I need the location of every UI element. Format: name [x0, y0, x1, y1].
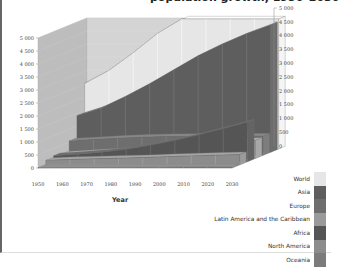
- x-tick: 1950: [32, 181, 45, 187]
- x-tick: 2000: [153, 181, 166, 187]
- legend-item: Europe: [214, 199, 326, 213]
- x-tick: 2020: [201, 181, 214, 187]
- legend-item: North America: [214, 240, 326, 254]
- legend-label: Latin America and the Caribbean: [214, 216, 310, 222]
- y-tick-right: 500: [279, 129, 289, 135]
- legend-item: Oceania: [214, 253, 326, 267]
- y-tick-right: 2 000: [279, 88, 293, 94]
- y-tick-left: 500: [24, 152, 34, 158]
- y-tick-left: 3 500: [20, 74, 34, 80]
- legend-swatch: [314, 226, 326, 240]
- y-tick-left: 3 000: [20, 87, 34, 93]
- legend-swatch: [314, 240, 326, 254]
- legend-label: World: [293, 176, 310, 182]
- legend-swatch: [314, 253, 326, 267]
- x-tick: 1990: [129, 181, 142, 187]
- x-tick: 1980: [104, 181, 117, 187]
- legend-swatch: [314, 199, 326, 213]
- legend-label: Asia: [298, 189, 310, 195]
- series-endcap: [248, 119, 255, 161]
- legend-swatch: [314, 172, 326, 186]
- series-endcap: [263, 134, 270, 156]
- legend-label: Oceania: [286, 257, 310, 263]
- y-tick-left: 1 000: [20, 139, 34, 145]
- series-endcap: [255, 138, 262, 159]
- y-tick-left: 1 500: [20, 126, 34, 132]
- y-tick-left: 0: [31, 165, 34, 171]
- y-tick-right: 2 500: [279, 74, 293, 80]
- legend-label: Africa: [293, 230, 310, 236]
- y-tick-right: 1 500: [279, 101, 293, 107]
- legend-item: Asia: [214, 186, 326, 200]
- y-tick-left: 4 500: [20, 48, 34, 54]
- y-tick-left: 2 000: [20, 113, 34, 119]
- x-axis-label: Year: [112, 196, 128, 204]
- legend-swatch: [314, 186, 326, 200]
- legend-label: North America: [268, 243, 310, 249]
- x-tick: 1970: [80, 181, 93, 187]
- x-tick: 1960: [56, 181, 69, 187]
- y-tick-right: 3 500: [279, 46, 293, 52]
- y-tick-right: 3 000: [279, 60, 293, 66]
- y-tick-left: 5 000: [20, 35, 34, 41]
- y-tick-right: 1 000: [279, 115, 293, 121]
- legend-item: Latin America and the Caribbean: [214, 213, 326, 227]
- y-tick-right: 4 000: [279, 32, 293, 38]
- legend-item: World: [214, 172, 326, 186]
- x-tick: 2010: [177, 181, 190, 187]
- legend-swatch: [314, 213, 326, 227]
- y-tick-right: 0: [279, 143, 282, 149]
- y-tick-left: 2 500: [20, 100, 34, 106]
- y-tick-right: 5 000: [279, 5, 293, 11]
- y-tick-left: 4 000: [20, 61, 34, 67]
- legend-item: Africa: [214, 226, 326, 240]
- legend-label: Europe: [290, 203, 310, 209]
- y-tick-right: 4 500: [279, 19, 293, 25]
- chart-legend: WorldAsiaEuropeLatin America and the Car…: [214, 172, 326, 267]
